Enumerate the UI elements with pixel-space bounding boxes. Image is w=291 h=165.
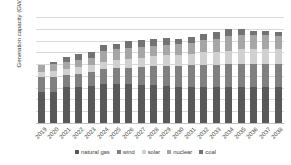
bar-segment-natural-gas xyxy=(163,86,170,123)
legend-item-coal[interactable]: coal xyxy=(199,149,216,155)
x-tick-wrap: 2032 xyxy=(200,124,207,146)
bar-column[interactable] xyxy=(113,17,120,123)
bar-segment-wind xyxy=(213,65,220,87)
bar-segment-nuclear xyxy=(175,44,182,55)
bar-segment-solar xyxy=(213,52,220,65)
bar-segment-nuclear xyxy=(100,51,107,62)
bar-column[interactable] xyxy=(150,17,157,123)
legend-swatch-icon xyxy=(199,150,203,154)
bar-segment-solar xyxy=(262,49,269,63)
x-tick-wrap: 2028 xyxy=(150,124,157,146)
bar-segment-wind xyxy=(50,77,57,92)
bar-segment-nuclear xyxy=(213,39,220,51)
bar-segment-natural-gas xyxy=(63,87,70,124)
bar-column[interactable] xyxy=(200,17,207,123)
bar-column[interactable] xyxy=(238,17,245,123)
x-axis-tick-label: 2023 xyxy=(84,126,98,140)
x-tick-wrap: 2033 xyxy=(213,124,220,146)
bar-column[interactable] xyxy=(188,17,195,123)
bar-segment-nuclear xyxy=(188,43,195,54)
bar-segment-coal xyxy=(225,29,232,36)
x-axis-tick-label: 2029 xyxy=(158,126,172,140)
bar-segment-nuclear xyxy=(125,48,132,59)
bar-column[interactable] xyxy=(213,17,220,123)
bar-segment-wind xyxy=(88,72,95,86)
bar-segment-wind xyxy=(113,68,120,83)
bar-segment-wind xyxy=(150,66,157,85)
x-axis-tick-label: 2019 xyxy=(34,126,48,140)
bar-segment-nuclear xyxy=(250,35,257,49)
x-tick-wrap: 2034 xyxy=(225,124,232,146)
x-tick-wrap: 2037 xyxy=(262,124,269,146)
x-axis-tick-label: 2034 xyxy=(221,126,235,140)
x-axis-tick-label: 2028 xyxy=(146,126,160,140)
bar-segment-coal xyxy=(138,40,145,47)
bar-segment-solar xyxy=(275,49,282,63)
bar-segment-nuclear xyxy=(150,46,157,57)
bar-segment-natural-gas xyxy=(150,85,157,123)
bar-segment-coal xyxy=(163,38,170,45)
bar-column[interactable] xyxy=(250,17,257,123)
bar-column[interactable] xyxy=(50,17,57,123)
bar-segment-wind xyxy=(100,69,107,83)
bar-column[interactable] xyxy=(138,17,145,123)
bar-segment-nuclear xyxy=(238,35,245,49)
y-axis-title: Generation capacity (GW) xyxy=(15,0,25,83)
legend-item-wind[interactable]: wind xyxy=(117,149,135,155)
bar-column[interactable] xyxy=(63,17,70,123)
bar-segment-natural-gas xyxy=(138,85,145,123)
bar-segment-natural-gas xyxy=(75,87,82,124)
bar-segment-solar xyxy=(150,56,157,66)
legend-label: wind xyxy=(123,149,135,155)
bar-segment-coal xyxy=(150,39,157,46)
bar-segment-natural-gas xyxy=(175,87,182,123)
x-axis-tick-label: 2033 xyxy=(208,126,222,140)
bar-segment-wind xyxy=(38,77,45,92)
bar-segment-nuclear xyxy=(275,36,282,50)
bar-column[interactable] xyxy=(175,17,182,123)
legend-label: solar xyxy=(148,149,161,155)
bar-segment-nuclear xyxy=(138,47,145,58)
bar-column[interactable] xyxy=(163,17,170,123)
bar-segment-natural-gas xyxy=(50,92,57,123)
legend-item-natural-gas[interactable]: natural gas xyxy=(75,149,110,155)
bar-column[interactable] xyxy=(38,17,45,123)
bar-column[interactable] xyxy=(75,17,82,123)
bar-segment-natural-gas xyxy=(213,87,220,123)
bar-segment-wind xyxy=(262,64,269,88)
bar-segment-wind xyxy=(125,68,132,84)
x-axis-tick-label: 2024 xyxy=(96,126,110,140)
bar-segment-wind xyxy=(163,66,170,86)
legend-item-solar[interactable]: solar xyxy=(142,149,161,155)
bar-segment-solar xyxy=(175,55,182,66)
x-tick-wrap: 2030 xyxy=(175,124,182,146)
bar-segment-solar xyxy=(238,49,245,63)
x-axis-tick-label: 2022 xyxy=(71,126,85,140)
bar-column[interactable] xyxy=(275,17,282,123)
bar-segment-nuclear xyxy=(50,64,57,71)
bar-segment-solar xyxy=(225,51,232,65)
x-axis-tick-label: 2025 xyxy=(109,126,123,140)
bar-column[interactable] xyxy=(88,17,95,123)
bar-segment-solar xyxy=(113,60,120,68)
bar-segment-coal xyxy=(125,41,132,48)
bar-segment-nuclear xyxy=(38,65,45,72)
bar-segment-nuclear xyxy=(225,36,232,50)
x-tick-wrap: 2022 xyxy=(75,124,82,146)
chart-legend: natural gaswindsolarnuclearcoal xyxy=(0,149,291,155)
bar-column[interactable] xyxy=(262,17,269,123)
bar-segment-coal xyxy=(213,32,220,40)
bar-segment-natural-gas xyxy=(88,86,95,123)
bar-segment-natural-gas xyxy=(275,87,282,123)
legend-label: nuclear xyxy=(173,149,192,155)
bar-column[interactable] xyxy=(125,17,132,123)
bar-column[interactable] xyxy=(100,17,107,123)
x-tick-wrap: 2024 xyxy=(100,124,107,146)
x-axis-tick-label: 2030 xyxy=(171,126,185,140)
legend-swatch-icon xyxy=(142,150,146,154)
bar-column[interactable] xyxy=(225,17,232,123)
x-tick-wrap: 2027 xyxy=(138,124,145,146)
legend-item-nuclear[interactable]: nuclear xyxy=(167,149,192,155)
bar-segment-wind xyxy=(250,64,257,88)
bar-segment-natural-gas xyxy=(38,92,45,123)
